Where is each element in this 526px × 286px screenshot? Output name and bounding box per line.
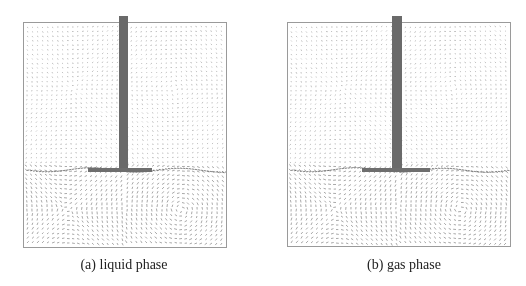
impeller-shaft-liquid — [119, 16, 128, 170]
caption-gas-phase: (b) gas phase — [354, 257, 454, 273]
impeller-blade-gas — [362, 168, 430, 172]
impeller-shaft-gas — [392, 16, 402, 170]
impeller-blade-liquid — [88, 168, 152, 172]
caption-liquid-phase: (a) liquid phase — [74, 257, 174, 273]
